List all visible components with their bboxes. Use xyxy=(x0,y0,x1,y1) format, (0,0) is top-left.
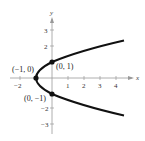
parabola-graph: x y −2 1 2 3 4 3 2 −2 −3 (−1, 0) (0, 1) … xyxy=(0,0,145,141)
x-tick-label: 4 xyxy=(114,82,118,90)
x-tick-label: 3 xyxy=(98,82,102,90)
x-axis-arrow-icon xyxy=(128,76,134,80)
y-tick-label: 3 xyxy=(44,27,48,35)
vertex-label: (−1, 0) xyxy=(12,65,34,74)
vertex-point xyxy=(33,75,38,80)
y-tick-label: −2 xyxy=(41,105,49,113)
y-tick-label: −3 xyxy=(41,121,49,129)
x-tick-label: −2 xyxy=(14,82,22,90)
x-tick-label: 2 xyxy=(82,82,86,90)
y-tick-label: 2 xyxy=(44,43,48,51)
point-0-1 xyxy=(49,59,54,64)
y-axis-label: y xyxy=(49,9,54,17)
point-0-neg1 xyxy=(49,91,54,96)
point-label-0-neg1: (0, −1) xyxy=(24,94,46,103)
x-axis-label: x xyxy=(135,74,140,82)
point-label-0-1: (0, 1) xyxy=(56,62,74,71)
x-tick-label: 1 xyxy=(66,82,70,90)
y-axis-arrow-icon xyxy=(50,17,54,23)
